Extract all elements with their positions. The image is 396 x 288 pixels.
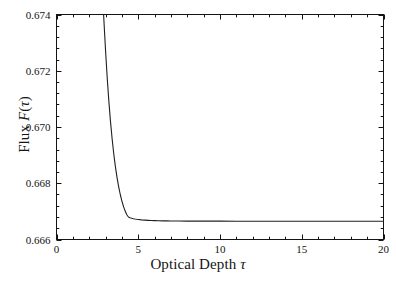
x-tick-label: 15 [296, 243, 308, 255]
y-axis-title-paren-close: ) [16, 96, 32, 101]
y-axis-title: Flux F(τ) [16, 55, 33, 195]
y-axis-title-text: Flux [16, 121, 32, 153]
x-tick-label: 5 [136, 243, 142, 255]
x-tick-label: 10 [215, 243, 227, 255]
y-axis-title-variable: F [16, 112, 32, 121]
x-axis-title-text: Optical Depth [150, 256, 240, 272]
y-axis-title-symbol: τ [16, 101, 32, 106]
x-tick-label: 0 [54, 243, 60, 255]
x-tick-label: 20 [378, 243, 390, 255]
figure-container: 05101520 0.6660.6680.6700.6720.674 Optic… [0, 0, 396, 288]
x-axis-title: Optical Depth τ [0, 256, 396, 273]
y-tick-label: 0.674 [26, 9, 51, 21]
y-tick-label: 0.666 [26, 234, 51, 246]
x-axis-title-symbol: τ [240, 256, 245, 272]
flux-vs-optical-depth-chart: 05101520 0.6660.6680.6700.6720.674 [0, 0, 396, 288]
chart-background [0, 0, 396, 288]
y-axis-title-paren-open: ( [16, 107, 32, 112]
